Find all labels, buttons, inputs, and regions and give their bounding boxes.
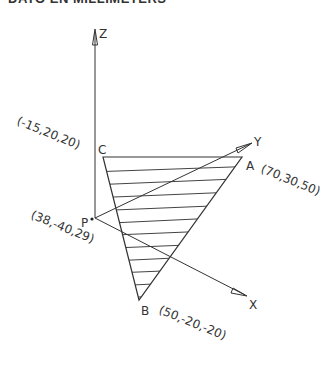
- z-axis: [93, 29, 98, 218]
- point-c-coords: (-15,20,20): [15, 114, 82, 152]
- x-axis: [95, 218, 247, 296]
- z-axis-label: Z: [99, 27, 107, 41]
- point-b-coords: (50,-20,-20): [157, 303, 229, 343]
- point-p-dot: [90, 217, 93, 220]
- point-b-label: B: [141, 304, 149, 318]
- point-a-coords: (70,30,50): [259, 162, 322, 199]
- triangle-outline: [103, 157, 242, 300]
- y-axis: [95, 143, 252, 218]
- point-c-label: C: [98, 143, 106, 157]
- 3d-plane-diagram: Z Y X C A B P (-15,20,20) (70,30,50) (38…: [0, 0, 331, 365]
- point-a-label: A: [246, 159, 255, 173]
- y-arrow-icon: [236, 143, 252, 153]
- y-axis-label: Y: [253, 135, 262, 149]
- x-axis-label: X: [249, 298, 257, 312]
